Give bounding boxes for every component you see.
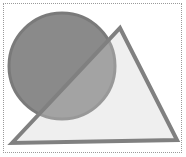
shapes-canvas <box>0 0 186 157</box>
